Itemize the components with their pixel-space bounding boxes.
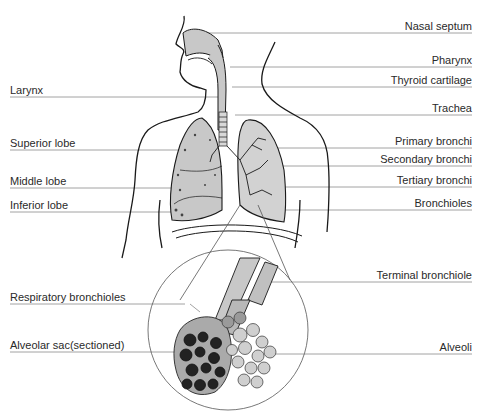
label-terminal-bronchiole: Terminal bronchiole bbox=[377, 269, 472, 281]
left-lung bbox=[238, 120, 286, 222]
label-respiratory-bronchioles: Respiratory bronchioles bbox=[10, 291, 126, 303]
alveoli-cluster bbox=[222, 312, 276, 388]
label-primary-bronchi: Primary bronchi bbox=[395, 135, 472, 147]
label-trachea: Trachea bbox=[432, 102, 472, 114]
label-secondary-bronchi: Secondary bronchi bbox=[380, 153, 472, 165]
label-bronchioles: Bronchioles bbox=[415, 197, 472, 209]
trachea bbox=[219, 112, 227, 146]
label-tertiary-bronchi: Tertiary bronchi bbox=[397, 174, 472, 186]
right-lung bbox=[170, 118, 222, 221]
label-pharynx: Pharynx bbox=[432, 54, 472, 66]
respiratory-diagram bbox=[0, 0, 486, 413]
label-superior-lobe: Superior lobe bbox=[10, 137, 75, 149]
label-larynx: Larynx bbox=[10, 84, 43, 96]
label-alveolar-sac: Alveolar sac(sectioned) bbox=[10, 339, 124, 351]
label-alveoli: Alveoli bbox=[440, 341, 472, 353]
alveolar-sac-sectioned bbox=[174, 317, 232, 395]
label-thyroid-cartilage: Thyroid cartilage bbox=[391, 74, 472, 86]
label-nasal-septum: Nasal septum bbox=[405, 20, 472, 32]
label-middle-lobe: Middle lobe bbox=[10, 175, 66, 187]
label-inferior-lobe: Inferior lobe bbox=[10, 199, 68, 211]
